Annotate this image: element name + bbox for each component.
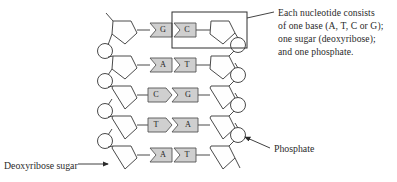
base-pair-2: A T bbox=[150, 58, 196, 72]
left-sugar-5 bbox=[112, 146, 137, 169]
nucleotide-callout-text: Each nucleotide consists of one base (A,… bbox=[278, 6, 396, 58]
right-strand-backbone bbox=[196, 21, 246, 169]
base-pair-5: A T bbox=[150, 148, 196, 162]
base-left-2-letter: A bbox=[160, 60, 166, 69]
base-right-5-letter: T bbox=[184, 150, 189, 159]
left-sugar-3 bbox=[112, 86, 137, 109]
base-left-4 bbox=[148, 118, 172, 132]
right-connector-2b bbox=[229, 81, 234, 86]
callout-line-2: of one base (A, T, C or G); bbox=[278, 19, 396, 32]
left-sugar-4 bbox=[112, 116, 137, 139]
left-strand-backbone bbox=[98, 13, 151, 169]
phosphate-label: Phosphate bbox=[274, 143, 314, 154]
left-backbone-top-stub bbox=[106, 13, 113, 21]
callout-line-1: Each nucleotide consists bbox=[278, 6, 396, 19]
callout-line-4: and one phosphate. bbox=[278, 45, 396, 58]
callout-leader-line bbox=[247, 12, 274, 18]
base-left-5-letter: A bbox=[160, 150, 166, 159]
deoxyribose-sugar-label: Deoxyribose sugar bbox=[4, 160, 78, 171]
right-phosphate-2 bbox=[231, 68, 246, 83]
base-right-1-letter: C bbox=[184, 25, 190, 34]
right-phosphate-4 bbox=[231, 128, 246, 143]
right-connector-4b bbox=[229, 141, 234, 146]
base-pair-1: G C bbox=[150, 23, 196, 37]
base-left-3-letter: C bbox=[153, 90, 159, 99]
base-right-4-letter: A bbox=[185, 120, 191, 129]
left-connector-3a bbox=[108, 99, 112, 105]
right-sugar-1 bbox=[210, 21, 235, 44]
left-sugar-1 bbox=[112, 21, 137, 44]
dna-diagram-figure: G C A T C G T A A bbox=[0, 0, 397, 182]
base-left-3 bbox=[148, 88, 172, 102]
base-left-4-letter: T bbox=[153, 120, 158, 129]
left-connector-1a bbox=[108, 34, 112, 45]
right-sugar-5 bbox=[210, 146, 235, 169]
base-pair-3: C G bbox=[148, 88, 198, 102]
left-sugar-2 bbox=[112, 56, 137, 79]
base-pair-4: T A bbox=[148, 118, 198, 132]
right-phosphate-3 bbox=[231, 98, 246, 113]
right-phosphate-1 bbox=[231, 38, 246, 53]
right-backbone-bottom-stub bbox=[235, 158, 240, 168]
right-connector-1b bbox=[229, 51, 234, 56]
base-left-1-letter: G bbox=[160, 25, 166, 34]
right-connector-3b bbox=[229, 111, 234, 116]
left-connector-2a bbox=[108, 69, 112, 75]
phosphate-arrow bbox=[245, 137, 270, 148]
base-right-3-letter: G bbox=[185, 90, 191, 99]
callout-line-3: one sugar (deoxyribose); bbox=[278, 32, 396, 45]
base-right-2-letter: T bbox=[184, 60, 189, 69]
left-connector-4a bbox=[108, 129, 112, 135]
